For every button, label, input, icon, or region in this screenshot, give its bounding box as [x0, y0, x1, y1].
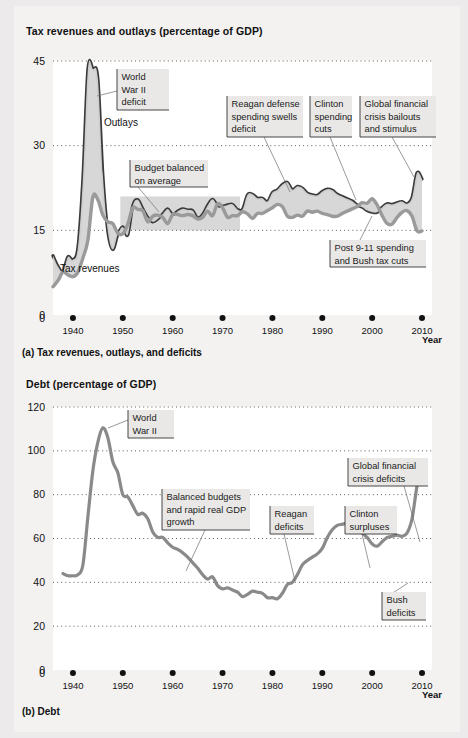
panel-b-chart: 0204060801001201940195019601970198019902…: [0, 360, 468, 720]
x-axis-tick-dot: [319, 315, 325, 321]
annotation-text: Bush: [387, 595, 408, 605]
annotation-text: Budget balanced: [135, 163, 205, 173]
annotation-text: and rapid real GDP: [167, 505, 247, 515]
x-axis-tick-dot: [70, 670, 76, 676]
annotation-text: spending swells: [232, 112, 298, 122]
annotation-text: and Bush tax cuts: [335, 256, 409, 266]
panel-a-caption: (a) Tax revenues, outlays, and deficits: [22, 347, 202, 358]
y-axis-tick-label: 45: [33, 55, 45, 67]
annotation-text: crisis deficits: [353, 474, 406, 484]
panel-a-svg: 0153045194019501960197019801990200020100…: [0, 0, 468, 360]
annotation-text: growth: [167, 517, 195, 527]
x-axis-title: Year: [422, 689, 442, 700]
series-label: Outlays: [104, 117, 138, 128]
x-axis-tick-label: 1950: [112, 680, 133, 691]
y-axis-tick-label: 15: [33, 224, 45, 236]
panel-b-caption: (b) Debt: [22, 706, 60, 717]
x-axis-tick-dot: [220, 670, 226, 676]
x-axis-tick-label: 1990: [312, 680, 333, 691]
figure-page: Tax revenues and outlays (percentage of …: [0, 0, 468, 738]
x-axis-tick-label: 1970: [212, 680, 233, 691]
annotation-text: cuts: [315, 124, 332, 134]
x-axis-tick-label: 1970: [212, 325, 233, 336]
annotation-text: surpluses: [350, 522, 390, 532]
x-axis-tick-label: 1980: [262, 680, 283, 691]
x-axis-tick-label: 1940: [62, 680, 83, 691]
x-axis-tick-dot: [120, 315, 126, 321]
x-axis-tick-dot: [319, 670, 325, 676]
panel-b-svg: 0204060801001201940195019601970198019902…: [0, 360, 468, 720]
x-axis-tick-dot: [369, 315, 375, 321]
x-axis-tick-label: 2000: [362, 680, 383, 691]
y-axis-zero-label: 0: [39, 312, 45, 324]
y-axis-tick-label: 20: [33, 620, 45, 632]
annotation-text: War II: [122, 85, 146, 95]
x-axis-tick-dot: [419, 315, 425, 321]
y-axis-tick-label: 80: [33, 488, 45, 500]
x-axis-tick-dot: [269, 670, 275, 676]
x-axis-tick-label: 1960: [162, 325, 183, 336]
annotation-text: crisis bailouts: [365, 112, 421, 122]
annotation-text: and stimulus: [365, 124, 418, 134]
series-label: Tax revenues: [60, 263, 119, 274]
y-axis-tick-label: 100: [27, 444, 45, 456]
annotation-text: Clinton: [315, 99, 344, 109]
x-axis-tick-dot: [170, 315, 176, 321]
annotation-text: Post 9-11 spending: [335, 243, 414, 253]
annotation-text: on average: [135, 176, 182, 186]
annotation-text: spending: [315, 112, 353, 122]
annotation-text: Balanced budgets: [167, 492, 242, 502]
y-axis-tick-label: 40: [33, 576, 45, 588]
annotation-text: World: [133, 413, 157, 423]
y-axis-zero-label: 0: [39, 667, 45, 679]
annotation-text: World: [122, 72, 146, 82]
annotation-text: War II: [133, 426, 157, 436]
x-axis-tick-dot: [369, 670, 375, 676]
y-axis-tick-label: 120: [27, 401, 45, 413]
x-axis-tick-label: 1950: [112, 325, 133, 336]
x-axis-tick-label: 1960: [162, 680, 183, 691]
panel-a-chart: 0153045194019501960197019801990200020100…: [0, 0, 468, 360]
annotation-text: deficit: [122, 97, 147, 107]
x-axis-tick-label: 1940: [62, 325, 83, 336]
annotation-text: deficits: [387, 608, 416, 618]
annotation-text: Reagan: [275, 509, 308, 519]
annotation-text: deficit: [232, 124, 257, 134]
x-axis-tick-dot: [120, 670, 126, 676]
annotation-text: deficits: [275, 522, 304, 532]
y-axis-tick-label: 30: [33, 139, 45, 151]
x-axis-tick-label: 1980: [262, 325, 283, 336]
annotation-text: Global financial: [365, 99, 429, 109]
x-axis-tick-dot: [220, 315, 226, 321]
x-axis-tick-dot: [269, 315, 275, 321]
x-axis-tick-dot: [170, 670, 176, 676]
annotation-text: Reagan defense: [232, 99, 300, 109]
x-axis-tick-label: 1990: [312, 325, 333, 336]
x-axis-title: Year: [422, 334, 442, 345]
x-axis-tick-dot: [419, 670, 425, 676]
x-axis-tick-label: 2000: [362, 325, 383, 336]
x-axis-tick-dot: [70, 315, 76, 321]
annotation-text: Global financial: [353, 461, 417, 471]
annotation-text: Clinton: [350, 509, 379, 519]
y-axis-tick-label: 60: [33, 532, 45, 544]
